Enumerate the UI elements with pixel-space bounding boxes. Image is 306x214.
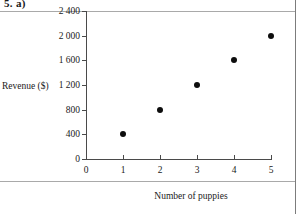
y-tick <box>82 11 86 12</box>
x-tick <box>271 155 272 159</box>
x-tick-label: 0 <box>76 165 96 175</box>
x-tick-label: 1 <box>113 165 133 175</box>
y-tick <box>82 60 86 61</box>
y-tick <box>82 159 86 160</box>
x-axis-line <box>86 159 272 160</box>
y-axis-title: Revenue ($) <box>2 81 49 92</box>
y-tick-label: 2 000 <box>42 31 80 41</box>
x-axis-title-text: Number of puppies <box>154 191 227 201</box>
x-tick-label: 3 <box>187 165 207 175</box>
question-label: 5. a) <box>4 0 26 9</box>
data-point <box>268 33 274 39</box>
x-tick <box>234 155 235 159</box>
y-axis-line <box>86 11 87 160</box>
x-axis-title: Number of puppies <box>0 191 306 202</box>
x-tick <box>123 155 124 159</box>
y-tick-label: 800 <box>42 105 80 115</box>
y-tick-label: 0 <box>42 154 80 164</box>
x-tick <box>86 155 87 159</box>
x-tick <box>160 155 161 159</box>
y-tick-label: 1 600 <box>42 55 80 65</box>
data-point <box>157 107 163 113</box>
x-tick-label: 4 <box>224 165 244 175</box>
y-tick-label: 2 400 <box>42 6 80 16</box>
y-tick <box>82 110 86 111</box>
y-tick <box>82 36 86 37</box>
x-tick-label: 2 <box>150 165 170 175</box>
data-point <box>194 82 200 88</box>
page-rule-bottom <box>0 181 295 182</box>
page-rule-right <box>295 0 296 214</box>
y-tick-label: 400 <box>42 129 80 139</box>
y-tick <box>82 85 86 86</box>
x-tick <box>197 155 198 159</box>
y-tick <box>82 134 86 135</box>
data-point <box>120 131 126 137</box>
scanned-page: 5. a) 04008001 2001 6002 0002 400 012345… <box>0 0 306 214</box>
x-tick-label: 5 <box>261 165 281 175</box>
data-point <box>231 57 237 63</box>
